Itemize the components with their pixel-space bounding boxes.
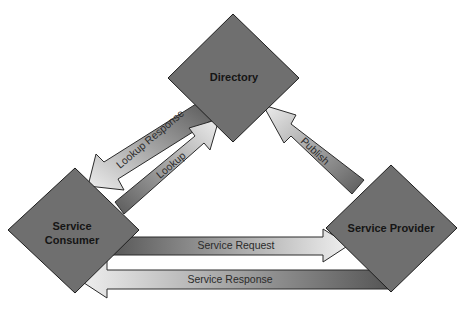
service-request-arrow: Service Request xyxy=(108,229,349,262)
service-request-label: Service Request xyxy=(197,239,274,251)
provider-label: Service Provider xyxy=(348,222,436,234)
consumer-label-line1: Service xyxy=(52,220,91,232)
publish-label: Publish xyxy=(299,135,332,167)
service-response-arrow: Service Response xyxy=(78,259,390,298)
service-response-label: Service Response xyxy=(187,273,272,285)
soa-triangle-diagram: Lookup Response Lookup Publish Service R… xyxy=(0,0,466,309)
publish-arrow: Publish xyxy=(263,105,364,194)
consumer-label-line2: Consumer xyxy=(45,234,100,246)
directory-label: Directory xyxy=(210,71,259,83)
